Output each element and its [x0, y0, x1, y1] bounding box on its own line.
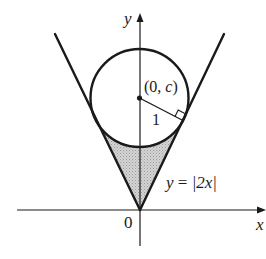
x-axis-arrow-icon — [257, 207, 266, 214]
diagram-canvas: y x 0 (0, c) 1 y = |2x| — [0, 0, 266, 259]
radius-line — [140, 98, 183, 120]
origin-label: 0 — [124, 213, 133, 232]
center-label-var: c — [165, 78, 172, 95]
right-angle-marker — [175, 110, 185, 117]
center-label: (0, c) — [144, 78, 178, 96]
curve-label: y = |2x| — [164, 173, 217, 192]
curve-label-y: y — [164, 173, 174, 192]
center-label-open: (0, — [144, 78, 165, 96]
y-axis-arrow-icon — [137, 13, 144, 22]
x-axis-label: x — [255, 215, 264, 234]
radius-label: 1 — [152, 111, 160, 128]
curve-label-expression: |2x| — [192, 173, 217, 192]
curve-label-equals: = — [174, 173, 192, 192]
y-axis-label: y — [122, 9, 132, 28]
center-label-close: ) — [172, 78, 177, 96]
